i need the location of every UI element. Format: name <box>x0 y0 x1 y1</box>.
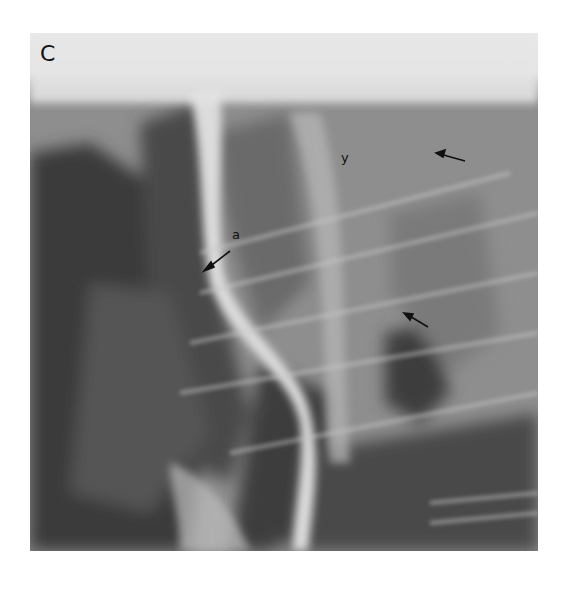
annotation-label-y: y <box>341 150 349 165</box>
annotation-label-a: a <box>232 227 240 242</box>
radiograph-image <box>30 33 538 551</box>
radiograph-figure: C a y <box>30 33 538 551</box>
panel-label: C <box>40 41 55 66</box>
